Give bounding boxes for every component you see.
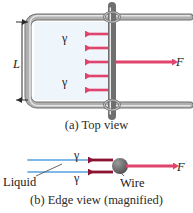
force-label-top-view: F <box>176 55 184 70</box>
liquid-surfaces-edge-view <box>28 160 112 172</box>
caption-panel-b: (b) Edge view (magnified) <box>0 193 193 208</box>
gamma-label-top-view-upper: γ <box>62 31 67 46</box>
dimension-label-L: L <box>13 57 20 72</box>
surface-tension-figure: γ γ F L (a) Top view γ γ F Liquid Wire (… <box>0 0 193 213</box>
wire-label: Wire <box>120 176 144 191</box>
liquid-label: Liquid <box>3 175 36 190</box>
gamma-label-edge-view-upper: γ <box>74 148 79 163</box>
liquid-leader-line <box>36 164 62 176</box>
caption-panel-a: (a) Top view <box>0 118 193 133</box>
force-label-edge-view: F <box>177 160 185 175</box>
gamma-label-top-view-lower: γ <box>62 75 67 90</box>
surface-tension-arrows-edge-view <box>88 160 113 172</box>
gamma-label-edge-view-lower: γ <box>74 171 79 186</box>
